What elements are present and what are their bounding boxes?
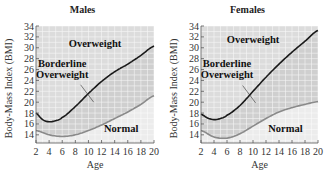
y-tick-label: 18: [189, 108, 199, 119]
x-axis-title: Age: [87, 159, 104, 170]
x-tick-label: 18: [300, 146, 310, 157]
x-tick-label: 2: [199, 146, 204, 157]
y-tick-label: 20: [189, 97, 199, 108]
y-tick-label: 26: [24, 64, 34, 75]
y-tick-label: 26: [189, 64, 199, 75]
x-tick-label: 4: [47, 146, 52, 157]
x-tick-label: 14: [274, 146, 284, 157]
x-tick-label: 2: [34, 146, 39, 157]
y-tick-label: 30: [189, 42, 199, 53]
y-axis-title: Body-Mass Index (BMI): [168, 39, 180, 138]
x-tick-label: 12: [97, 146, 107, 157]
x-tick-label: 6: [60, 146, 65, 157]
y-tick-label: 32: [24, 31, 34, 42]
y-tick-label: 34: [24, 21, 34, 32]
y-tick-label: 20: [24, 97, 34, 108]
borderline-label: Borderline: [38, 58, 87, 69]
y-tick-label: 18: [24, 108, 34, 119]
x-tick-label: 20: [313, 146, 323, 157]
y-tick-label: 16: [189, 118, 199, 129]
x-axis-title: Age: [251, 159, 268, 170]
y-tick-label: 24: [189, 75, 199, 86]
x-tick-label: 10: [83, 146, 93, 157]
x-tick-label: 6: [225, 146, 230, 157]
x-tick-label: 4: [212, 146, 217, 157]
x-tick-label: 12: [261, 146, 271, 157]
y-tick-label: 28: [24, 53, 34, 64]
females-chart-panel: Females 14161820222426283032342468101214…: [165, 0, 329, 180]
overweight-label: Overweight: [227, 34, 280, 45]
borderline-label: Borderline: [203, 58, 252, 69]
y-tick-label: 24: [24, 75, 34, 86]
borderline-overweight-label: Overweight: [201, 69, 254, 80]
x-tick-label: 8: [73, 146, 78, 157]
y-tick-label: 22: [189, 86, 199, 97]
y-tick-label: 32: [189, 31, 199, 42]
y-tick-label: 22: [24, 86, 34, 97]
normal-label: Normal: [268, 123, 302, 134]
x-tick-label: 14: [110, 146, 120, 157]
y-tick-label: 14: [24, 129, 34, 140]
x-tick-label: 16: [123, 146, 133, 157]
y-axis-title: Body-Mass Index (BMI): [3, 39, 15, 138]
males-chart-panel: Males 1416182022242628303234246810121416…: [0, 0, 165, 180]
overweight-label: Overweight: [69, 38, 122, 49]
borderline-overweight-label: Overweight: [36, 69, 89, 80]
y-tick-label: 30: [24, 42, 34, 53]
x-tick-label: 18: [136, 146, 146, 157]
y-tick-label: 16: [24, 118, 34, 129]
x-tick-label: 16: [287, 146, 297, 157]
x-tick-label: 10: [248, 146, 258, 157]
y-tick-label: 28: [189, 53, 199, 64]
x-tick-label: 8: [238, 146, 243, 157]
females-chart-svg: 14161820222426283032342468101214161820Ag…: [165, 0, 329, 180]
x-tick-label: 20: [149, 146, 159, 157]
y-tick-label: 34: [189, 21, 199, 32]
y-tick-label: 14: [189, 129, 199, 140]
normal-label: Normal: [104, 123, 138, 134]
males-chart-svg: 14161820222426283032342468101214161820Ag…: [0, 0, 165, 180]
